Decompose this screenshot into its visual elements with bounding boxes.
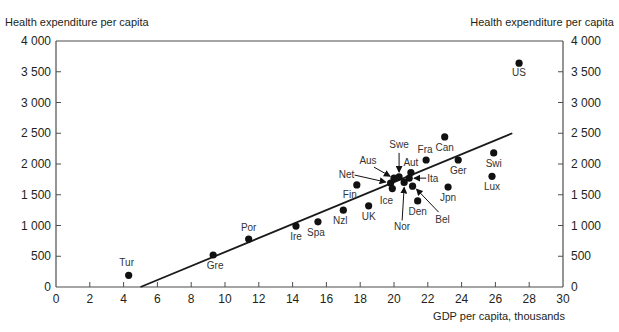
- x-tick-label: 20: [387, 292, 401, 306]
- x-tick-label: 18: [354, 292, 368, 306]
- point-label: Can: [436, 142, 454, 153]
- point-label: Fin: [343, 189, 357, 200]
- y-tick-label-left: 0: [44, 280, 51, 294]
- x-tick-label: 2: [86, 292, 93, 306]
- arrow-icon: [374, 167, 390, 176]
- point-label: Aus: [359, 155, 376, 166]
- point-marker: [488, 173, 495, 180]
- x-axis: 024681012141618202224262830: [53, 282, 570, 306]
- point-label: Nor: [394, 221, 411, 232]
- x-tick-label: 4: [120, 292, 127, 306]
- arrow-icon: [402, 187, 404, 220]
- point-label: Tur: [119, 257, 134, 268]
- point-label: UK: [362, 211, 376, 222]
- point-marker: [292, 223, 299, 230]
- point-marker: [414, 197, 421, 204]
- point-label: US: [512, 67, 526, 78]
- data-point-net: Net: [339, 169, 394, 187]
- y-tick-label-right: 3 500: [571, 65, 601, 79]
- point-label: Net: [339, 169, 355, 180]
- y-tick-label-right: 2 000: [571, 157, 601, 171]
- x-tick-label: 22: [421, 292, 435, 306]
- y-tick-label-right: 1 000: [571, 219, 601, 233]
- y-tick-label-left: 2 000: [21, 157, 51, 171]
- point-label: Por: [241, 222, 257, 233]
- data-point-jpn: Jpn: [440, 183, 456, 203]
- data-point-ire: Ire: [290, 223, 302, 243]
- scatter-chart: 024681012141618202224262830 05001 0001 5…: [0, 0, 619, 332]
- data-point-uk: UK: [362, 202, 376, 222]
- regression-line: [141, 133, 513, 287]
- y-tick-label-right: 4 000: [571, 34, 601, 48]
- point-label: Jpn: [440, 192, 456, 203]
- point-label: Ice: [380, 195, 394, 206]
- point-marker: [245, 235, 252, 242]
- data-point-tur: Tur: [119, 257, 134, 279]
- point-label: Ire: [290, 231, 302, 242]
- data-point-fra: Fra: [418, 144, 433, 164]
- data-point-ger: Ger: [450, 156, 467, 176]
- x-tick-label: 14: [286, 292, 300, 306]
- data-points: USTurGrePorIreSpaNzlUKFinCanFraGerSwiLux…: [119, 60, 526, 279]
- point-marker: [125, 272, 132, 279]
- y-tick-label-left: 3 000: [21, 96, 51, 110]
- point-marker: [314, 218, 321, 225]
- y-axis-right: 05001 0001 5002 0002 5003 0003 5004 000: [558, 34, 601, 294]
- arrow-icon: [355, 175, 386, 182]
- y-tick-label-right: 0: [571, 280, 578, 294]
- x-tick-label: 28: [523, 292, 537, 306]
- data-point-swi: Swi: [486, 149, 502, 169]
- point-label: Swe: [389, 139, 409, 150]
- y-tick-label-left: 500: [31, 249, 51, 263]
- point-label: Gre: [207, 260, 224, 271]
- point-marker: [365, 202, 372, 209]
- point-marker: [444, 183, 451, 190]
- x-tick-label: 10: [218, 292, 232, 306]
- point-marker: [515, 60, 522, 67]
- y-tick-label-left: 2 500: [21, 126, 51, 140]
- x-tick-label: 24: [455, 292, 469, 306]
- x-tick-label: 16: [320, 292, 334, 306]
- point-marker: [340, 207, 347, 214]
- point-marker: [210, 251, 217, 258]
- y-tick-label-left: 1 000: [21, 219, 51, 233]
- point-label: Aut: [403, 157, 418, 168]
- point-marker: [490, 149, 497, 156]
- x-tick-label: 12: [252, 292, 266, 306]
- x-tick-label: 8: [188, 292, 195, 306]
- point-marker: [455, 156, 462, 163]
- point-marker: [353, 181, 360, 188]
- data-point-us: US: [512, 60, 526, 79]
- point-label: Den: [408, 206, 426, 217]
- data-point-lux: Lux: [484, 173, 500, 193]
- data-point-spa: Spa: [307, 218, 325, 238]
- point-marker: [389, 185, 396, 192]
- point-label: Bel: [435, 214, 449, 225]
- y-tick-label-right: 500: [571, 249, 591, 263]
- data-point-nzl: Nzl: [333, 207, 347, 227]
- point-marker: [441, 133, 448, 140]
- point-marker: [423, 156, 430, 163]
- y-tick-label-left: 1 500: [21, 188, 51, 202]
- data-point-den: Den: [408, 197, 426, 217]
- y-tick-label-left: 3 500: [21, 65, 51, 79]
- point-label: Lux: [484, 181, 500, 192]
- trend-line: [141, 133, 513, 287]
- y-tick-label-right: 1 500: [571, 188, 601, 202]
- x-tick-label: 6: [154, 292, 161, 306]
- point-marker: [395, 173, 402, 180]
- y-tick-label-left: 4 000: [21, 34, 51, 48]
- y-tick-label-right: 3 000: [571, 96, 601, 110]
- point-marker: [401, 179, 408, 186]
- point-label: Ger: [450, 165, 467, 176]
- data-point-can: Can: [436, 133, 454, 153]
- x-tick-label: 26: [489, 292, 503, 306]
- point-label: Fra: [418, 144, 433, 155]
- point-label: Spa: [307, 227, 325, 238]
- data-point-ice: Ice: [380, 185, 396, 206]
- x-tick-label: 0: [53, 292, 60, 306]
- point-label: Ita: [427, 173, 439, 184]
- y-axis-left: 05001 0001 5002 0002 5003 0003 5004 000: [21, 34, 61, 294]
- data-point-bel: Bel: [409, 183, 450, 226]
- y-tick-label-right: 2 500: [571, 126, 601, 140]
